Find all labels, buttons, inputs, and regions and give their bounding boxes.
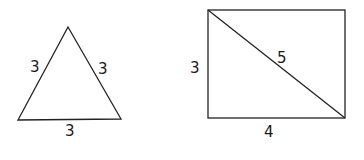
triangle-bottom-side-label: 3 [65, 122, 75, 140]
geometry-diagram: 3 3 3 3 5 4 [0, 0, 364, 160]
rectangle-left-side-label: 3 [190, 59, 200, 77]
triangle-right-side-label: 3 [98, 60, 108, 78]
triangle-left-side-label: 3 [30, 58, 40, 76]
rectangle-bottom-side-label: 4 [264, 123, 274, 141]
rectangle-figure: 3 5 4 [190, 10, 345, 141]
triangle-figure: 3 3 3 [18, 27, 121, 140]
rectangle-diagonal-label: 5 [277, 49, 287, 67]
